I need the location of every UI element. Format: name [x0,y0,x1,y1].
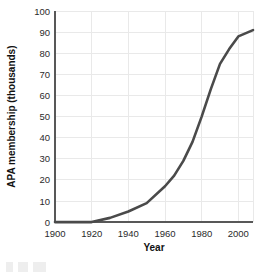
y-tick-label-10: 10 [39,196,50,207]
page-footer-artifact [6,262,66,272]
data-series-line [55,30,253,222]
y-tick-label-50: 50 [39,111,50,122]
y-tick-label-70: 70 [39,69,50,80]
y-axis-title: APA membership (thousands) [6,45,17,187]
x-tick-label-1940: 1940 [118,228,139,239]
y-tick-label-90: 90 [39,27,50,38]
chart-figure: 100 90 80 70 60 50 40 30 20 10 0 1900 19… [0,0,269,277]
x-tick-label-2000: 2000 [228,228,249,239]
y-tick-label-20: 20 [39,174,50,185]
x-tick-label-1960: 1960 [154,228,175,239]
x-tick-label-1980: 1980 [191,228,212,239]
x-tick-labels: 1900 1920 1940 1960 1980 2000 [44,228,248,239]
x-tick-label-1920: 1920 [81,228,102,239]
y-tick-label-30: 30 [39,153,50,164]
y-tick-labels: 100 90 80 70 60 50 40 30 20 10 0 [34,6,50,228]
y-gridlines [55,11,253,201]
y-tick-label-0: 0 [45,217,50,228]
y-tick-label-40: 40 [39,132,50,143]
y-tick-label-80: 80 [39,48,50,59]
y-tick-label-60: 60 [39,90,50,101]
line-chart: 100 90 80 70 60 50 40 30 20 10 0 1900 19… [0,0,269,277]
x-tick-label-1900: 1900 [44,228,65,239]
x-axis-title: Year [143,242,164,253]
y-tick-label-100: 100 [34,6,50,17]
